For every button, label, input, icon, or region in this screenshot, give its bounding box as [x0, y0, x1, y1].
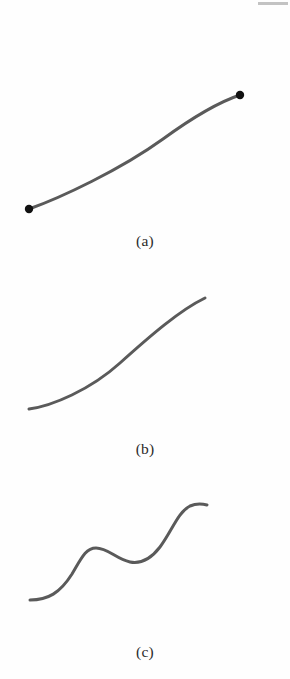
caption-c: (c) — [0, 643, 290, 661]
figure-panel-b: (b) — [0, 262, 290, 475]
curve-a-canvas — [0, 0, 290, 262]
figure-panel-a: (a) — [0, 0, 290, 262]
curve-a-path — [29, 95, 240, 209]
figure-page: (a) (b) (c) — [0, 0, 290, 679]
curve-c-path — [30, 504, 207, 600]
figure-panel-c: (c) — [0, 475, 290, 679]
curve-a-end-point — [236, 91, 244, 99]
caption-a: (a) — [0, 232, 290, 250]
caption-b: (b) — [0, 440, 290, 458]
curve-b-path — [29, 298, 205, 409]
curve-a-start-point — [25, 205, 33, 213]
